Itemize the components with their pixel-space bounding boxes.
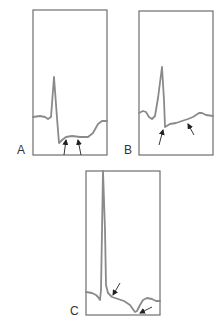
panel-b bbox=[139, 11, 213, 155]
panel-b-label: B bbox=[124, 144, 132, 156]
panel-a-arrow-icon-1 bbox=[64, 140, 66, 155]
panel-b-arrow-icon-2 bbox=[188, 124, 194, 135]
panel-b-arrow-icon-1 bbox=[159, 130, 163, 145]
panel-c-arrow-icon-2 bbox=[140, 307, 152, 313]
panel-c-arrow-icon-1 bbox=[113, 283, 120, 295]
panel-b-frame bbox=[139, 11, 213, 155]
panel-c-ecg-trace bbox=[86, 171, 160, 312]
panel-a-arrow-icon-2 bbox=[78, 140, 81, 155]
panel-a-ecg-trace bbox=[33, 77, 107, 143]
panel-c-frame bbox=[86, 171, 160, 315]
panel-c-label: C bbox=[70, 305, 79, 317]
ecg-panels-svg bbox=[0, 0, 220, 324]
panel-c bbox=[86, 171, 160, 315]
panel-b-ecg-trace bbox=[139, 67, 213, 127]
panel-a-frame bbox=[33, 10, 107, 155]
ecg-figure: A B C bbox=[0, 0, 220, 324]
panel-a-label: A bbox=[17, 144, 25, 156]
panel-a bbox=[33, 10, 107, 155]
